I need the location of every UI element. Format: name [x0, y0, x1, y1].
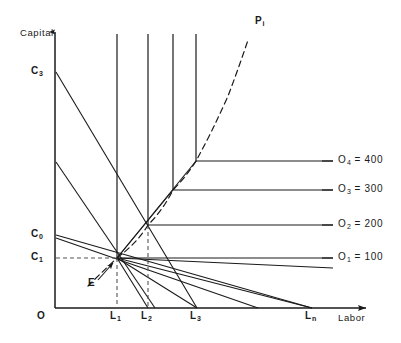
- isoquant-label-4-value: = 400: [354, 154, 383, 165]
- axis-lines: [55, 32, 366, 308]
- isoquant-label-3-sub: 3: [346, 188, 350, 195]
- y-tick-c1-sub: 1: [39, 256, 43, 263]
- isoquant-label-4: O4 = 400: [338, 155, 383, 166]
- x-tick-l2-sub: 2: [147, 315, 151, 322]
- isoquant-diagram-figure: Capital Labor O L1 L2 L3 Ln C3 C0 C1 E P…: [0, 0, 401, 343]
- expansion-path-label: Pi: [255, 16, 264, 27]
- ray-e-upright-2: [117, 190, 173, 258]
- equilibrium-point-label: E: [88, 278, 95, 288]
- expansion-path-label-text: P: [255, 15, 262, 26]
- diagram-canvas: [0, 0, 401, 343]
- isoquant-label-3: O3 = 300: [338, 184, 383, 195]
- y-tick-c3: C3: [31, 66, 43, 77]
- isoquant-label-2-value: = 200: [354, 218, 383, 229]
- isocost-line-c0-a: [56, 235, 312, 308]
- y-tick-c1: C1: [31, 252, 43, 263]
- ray-e-to-l2: [117, 258, 148, 308]
- isoquant-label-1: O1 = 100: [338, 252, 383, 263]
- isoquant-label-connectors: [322, 161, 333, 258]
- y-axis-title: Capital: [20, 28, 54, 38]
- isocost-line-c0-b: [56, 238, 258, 308]
- x-tick-l3: L3: [190, 311, 201, 322]
- isoquant-label-2: O2 = 200: [338, 219, 383, 230]
- x-tick-ln: Ln: [305, 311, 316, 322]
- isoquant-label-3-value: = 300: [354, 183, 383, 194]
- origin-label: O: [37, 311, 45, 321]
- x-tick-l1: L1: [110, 311, 121, 322]
- y-tick-c0-text: C: [31, 228, 39, 239]
- isocost-rays-from-equilibrium: [117, 161, 333, 308]
- isoquant-label-4-sub: 4: [346, 159, 350, 166]
- equilibrium-leader-arrow: [98, 263, 113, 280]
- x-tick-l2: L2: [141, 311, 152, 322]
- x-tick-l3-sub: 3: [196, 315, 200, 322]
- isoquant-label-1-sub: 1: [346, 256, 350, 263]
- y-tick-c0: C0: [31, 229, 43, 240]
- expansion-path-curve: [88, 40, 248, 286]
- isoquant-label-2-sub: 2: [346, 223, 350, 230]
- y-tick-c1-text: C: [31, 251, 39, 262]
- y-tick-c0-sub: 0: [39, 233, 43, 240]
- x-axis-title: Labor: [338, 313, 365, 323]
- y-tick-c3-sub: 3: [39, 70, 43, 77]
- y-tick-c3-text: C: [31, 65, 39, 76]
- isocost-line-c2: [56, 162, 155, 308]
- x-tick-ln-sub: n: [311, 315, 316, 322]
- isoquant-label-1-value: = 100: [354, 251, 383, 262]
- isoquant-horizontal-arms: [117, 161, 333, 258]
- x-tick-l1-sub: 1: [116, 315, 120, 322]
- expansion-path-label-sub: i: [262, 20, 264, 27]
